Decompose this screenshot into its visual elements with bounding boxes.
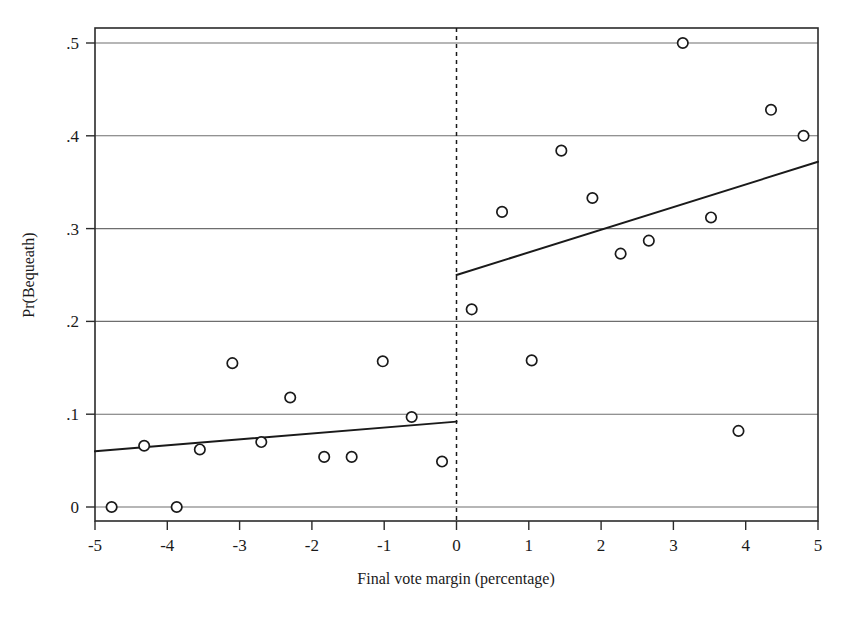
data-point-marker: [406, 412, 416, 422]
y-tick-label: .4: [66, 127, 79, 146]
y-tick-label: .5: [66, 34, 79, 53]
data-point-marker: [256, 437, 266, 447]
x-tick-label: 1: [525, 536, 534, 555]
x-tick-label: -4: [160, 536, 175, 555]
x-tick-labels-group: -5-4-3-2-1012345: [88, 536, 822, 555]
data-point-marker: [319, 452, 329, 462]
x-axis-label: Final vote margin (percentage): [357, 570, 554, 588]
data-point-marker: [526, 355, 536, 365]
data-point-marker: [195, 444, 205, 454]
x-tick-label: -3: [233, 536, 247, 555]
x-tick-label: -1: [377, 536, 391, 555]
y-axis-label: Pr(Bequeath): [20, 232, 38, 317]
data-point-marker: [733, 426, 743, 436]
data-point-marker: [378, 356, 388, 366]
y-tick-labels-group: 0.1.2.3.4.5: [66, 34, 79, 517]
tickmarks-group: [86, 43, 818, 530]
y-tick-label: 0: [71, 498, 80, 517]
x-tick-label: 0: [452, 536, 461, 555]
x-tick-label: -2: [305, 536, 319, 555]
data-point-marker: [678, 38, 688, 48]
y-tick-label: .1: [66, 405, 79, 424]
y-tick-label: .3: [66, 220, 79, 239]
x-tick-label: 5: [814, 536, 823, 555]
chart-figure: -5-4-3-2-1012345 0.1.2.3.4.5 Final vote …: [0, 0, 852, 622]
scatter-plot-canvas: -5-4-3-2-1012345 0.1.2.3.4.5 Final vote …: [0, 0, 852, 622]
x-tick-label: 3: [669, 536, 678, 555]
data-point-marker: [497, 207, 507, 217]
x-tick-label: 2: [597, 536, 606, 555]
data-point-marker: [615, 248, 625, 258]
data-point-marker: [285, 392, 295, 402]
y-tick-label: .2: [66, 312, 79, 331]
data-point-marker: [706, 212, 716, 222]
x-tick-label: 4: [741, 536, 750, 555]
data-point-marker: [798, 131, 808, 141]
data-point-marker: [437, 456, 447, 466]
data-point-marker: [556, 145, 566, 155]
data-point-marker: [766, 105, 776, 115]
data-point-marker: [466, 304, 476, 314]
x-tick-label: -5: [88, 536, 102, 555]
data-point-marker: [171, 502, 181, 512]
data-point-marker: [644, 235, 654, 245]
data-point-marker: [587, 193, 597, 203]
data-point-marker: [346, 452, 356, 462]
data-point-marker: [227, 358, 237, 368]
data-point-marker: [106, 502, 116, 512]
right-of-cutoff-fit: [457, 162, 819, 275]
data-point-marker: [139, 441, 149, 451]
